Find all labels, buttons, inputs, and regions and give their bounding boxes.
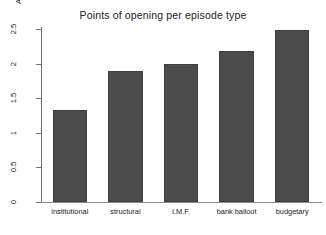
bar — [219, 51, 253, 202]
bar — [275, 30, 309, 202]
y-tick-mark — [36, 133, 41, 134]
x-tick-label: structural — [98, 207, 154, 219]
bar — [164, 64, 198, 202]
x-tick-label: budgetary — [264, 207, 320, 219]
y-tick-mark — [36, 64, 41, 65]
y-tick-label: 1.5 — [9, 84, 19, 112]
y-tick-mark — [36, 98, 41, 99]
x-tick-label: institutional — [42, 207, 98, 219]
chart-title: Points of opening per episode type — [0, 9, 326, 21]
y-tick-label: 2 — [9, 50, 19, 78]
x-tick-label: I.M.F. — [153, 207, 209, 219]
y-tick-mark — [36, 167, 41, 168]
y-tick-label: 0 — [9, 188, 19, 216]
bar — [108, 71, 142, 202]
x-axis-line — [41, 202, 322, 203]
y-tick-label: 1 — [9, 119, 19, 147]
y-tick-mark — [36, 29, 41, 30]
x-tick-label: bank bailout — [209, 207, 265, 219]
y-tick-mark — [36, 202, 41, 203]
y-tick-label: 2.5 — [9, 15, 19, 43]
y-axis-line — [41, 27, 42, 203]
bar-chart: Points of opening per episode type Avera… — [0, 0, 326, 235]
bar — [53, 110, 87, 202]
y-tick-label: 0.5 — [9, 153, 19, 181]
